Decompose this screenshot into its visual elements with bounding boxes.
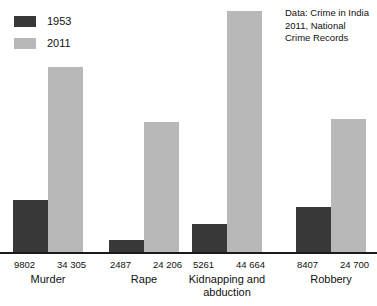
- legend-label-2011: 2011: [47, 38, 71, 49]
- legend-swatch-2011: [14, 38, 36, 49]
- bar-robbery-1953: [296, 207, 331, 253]
- legend-swatch-1953: [14, 16, 36, 27]
- bar-murder-1953: [13, 200, 48, 253]
- value-robbery-2011: 24 700: [331, 259, 377, 271]
- bar-kidnapping-1953: [192, 224, 227, 253]
- bar-murder-2011: [48, 67, 83, 253]
- group-label-murder: 9802 34 305 Murder: [1, 254, 95, 286]
- value-murder-2011: 34 305: [48, 259, 95, 271]
- bar-kidnapping-2011: [227, 11, 262, 253]
- value-row-kidnapping: 5261 44 664: [180, 254, 274, 271]
- group-label-robbery: 8407 24 700 Robbery: [284, 254, 377, 286]
- bar-robbery-2011: [331, 119, 366, 253]
- legend-item-1953: 1953: [14, 14, 71, 29]
- value-kidnapping-1953: 5261: [180, 259, 227, 271]
- group-label-rape: 2487 24 206 Rape: [97, 254, 191, 286]
- category-labels: 9802 34 305 Murder 2487 24 206 Rape 5261…: [0, 254, 377, 306]
- value-robbery-1953: 8407: [284, 259, 331, 271]
- group-label-kidnapping: 5261 44 664 Kidnapping and abduction: [180, 254, 274, 299]
- value-murder-1953: 9802: [1, 259, 48, 271]
- legend-item-2011: 2011: [14, 36, 71, 51]
- value-row-murder: 9802 34 305: [1, 254, 95, 271]
- value-kidnapping-2011: 44 664: [227, 259, 274, 271]
- category-name-robbery: Robbery: [284, 271, 377, 286]
- category-name-murder: Murder: [1, 271, 95, 286]
- bar-chart: 1953 2011 Data: Crime in India 2011, Nat…: [0, 0, 377, 306]
- chart-legend: 1953 2011: [14, 14, 71, 58]
- bar-rape-2011: [144, 122, 179, 253]
- chart-source-note: Data: Crime in India 2011, National Crim…: [285, 7, 371, 45]
- value-rape-1953: 2487: [97, 259, 144, 271]
- category-name-kidnapping: Kidnapping and abduction: [180, 271, 274, 299]
- legend-label-1953: 1953: [47, 16, 71, 27]
- bar-rape-1953: [109, 240, 144, 253]
- value-row-rape: 2487 24 206: [97, 254, 191, 271]
- value-row-robbery: 8407 24 700: [284, 254, 377, 271]
- category-name-rape: Rape: [97, 271, 191, 286]
